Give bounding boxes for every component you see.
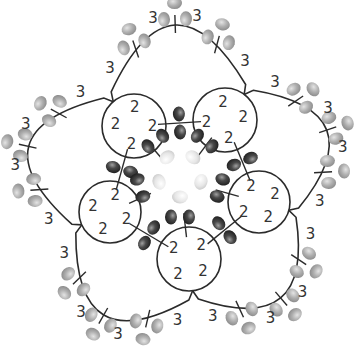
ring-count-label: 2	[111, 115, 121, 133]
chain-count-label: 3	[76, 303, 86, 321]
picot-bead	[320, 155, 336, 168]
dark-bead	[214, 171, 232, 187]
picot-bead	[239, 319, 258, 336]
picot-bead	[299, 244, 318, 262]
ring-count-label: 2	[173, 265, 183, 283]
chain-count-label: 3	[315, 192, 325, 210]
ring-count-label: 2	[238, 108, 248, 126]
ring-count-label: 2	[224, 129, 234, 147]
picot-bead	[158, 12, 170, 27]
ring-count-label: 2	[197, 236, 207, 254]
chain-count-label: 3	[44, 210, 54, 228]
chain-count-label: 3	[113, 325, 123, 343]
chain-count-label: 3	[240, 52, 250, 70]
dark-bead	[174, 124, 187, 140]
picot-bead	[296, 98, 315, 116]
chain-count-label: 3	[76, 83, 86, 101]
chain-count-label: 3	[105, 59, 115, 77]
dark-bead	[139, 137, 158, 156]
chain-count-label: 3	[173, 311, 183, 329]
picot-bead	[338, 163, 351, 179]
picot-bead	[116, 39, 132, 57]
dark-bead	[172, 106, 185, 122]
ring-count-label: 2	[246, 177, 256, 195]
picot-bead	[31, 94, 49, 113]
dark-bead	[225, 156, 243, 173]
picot-bead	[284, 80, 303, 98]
chain-count-label: 3	[306, 225, 316, 243]
picot-bead	[12, 183, 25, 199]
ring-count-label: 2	[270, 185, 280, 203]
chain-count-label: 3	[208, 307, 218, 325]
center-bead	[192, 172, 209, 191]
picot-stem	[314, 172, 332, 173]
picot-bead	[26, 172, 42, 185]
center-bead	[183, 147, 204, 167]
picot-bead	[150, 317, 165, 334]
picot-stem	[175, 15, 176, 33]
pattern-diagram: 2222222222222222222233333333333333333333	[0, 0, 360, 354]
chain-count-label: 3	[148, 9, 158, 27]
ring-count-label: 2	[122, 210, 132, 228]
outer-chain	[111, 25, 245, 102]
chain-count-label: 3	[270, 73, 280, 91]
inner-ring	[228, 171, 290, 233]
dark-bead	[134, 189, 152, 205]
picot-bead	[0, 133, 15, 150]
chain-count-label: 3	[266, 309, 276, 327]
picot-bead	[223, 309, 240, 328]
picot-bead	[27, 194, 43, 207]
chain-count-label: 3	[338, 138, 348, 156]
pattern-canvas: 2222222222222222222233333333333333333333	[0, 0, 360, 354]
picot-bead	[307, 262, 325, 281]
chain-count-label: 3	[298, 283, 308, 301]
picot-bead	[221, 34, 237, 52]
ring-count-label: 2	[88, 197, 98, 215]
ring-count-label: 2	[218, 93, 228, 111]
picot-bead	[304, 80, 322, 99]
ring-count-label: 2	[198, 262, 208, 280]
picot-bead	[59, 264, 78, 283]
dark-bead	[208, 189, 226, 205]
picot-bead	[50, 92, 69, 110]
outer-chain	[28, 98, 114, 225]
chain-count-label: 3	[323, 99, 333, 117]
ring-count-label: 2	[127, 135, 137, 153]
picot-bead	[285, 305, 304, 324]
picot-bead	[339, 114, 355, 132]
picot-bead	[55, 283, 74, 302]
ring-count-label: 2	[148, 117, 158, 135]
ring-count-label: 2	[130, 98, 140, 116]
ring-count-label: 2	[169, 239, 179, 257]
chain-count-label: 3	[10, 156, 20, 174]
picot-bead	[243, 300, 260, 319]
picot-bead	[180, 11, 192, 26]
outer-chain	[193, 210, 299, 308]
center-bead	[150, 172, 167, 191]
chain-count-label: 3	[192, 7, 202, 25]
chain-count-label: 3	[21, 115, 31, 133]
ring-count-label: 2	[264, 208, 274, 226]
picot-bead	[134, 332, 151, 347]
picot-bead	[74, 280, 93, 299]
ring-join-line	[158, 122, 201, 125]
picot-stem	[30, 189, 48, 190]
picot-bead	[128, 312, 143, 329]
dark-bead	[241, 150, 259, 167]
picot-bead	[214, 17, 232, 33]
dark-bead	[165, 210, 177, 225]
dark-bead	[104, 159, 122, 175]
picot-bead	[167, 0, 182, 9]
center-bead	[157, 147, 178, 167]
picot-bead	[83, 325, 102, 343]
inner-ring	[157, 227, 221, 291]
picot-bead	[120, 21, 138, 37]
ring-count-label: 2	[239, 203, 249, 221]
picot-bead	[40, 112, 59, 130]
picot-bead	[321, 177, 337, 190]
chain-count-label: 3	[59, 244, 69, 262]
dark-bead	[183, 210, 195, 225]
ring-count-label: 2	[98, 220, 108, 238]
ring-count-label: 2	[202, 113, 212, 131]
center-bead	[172, 191, 188, 204]
